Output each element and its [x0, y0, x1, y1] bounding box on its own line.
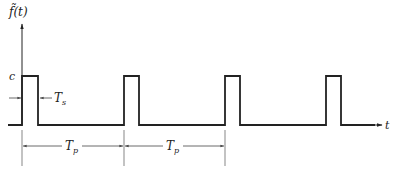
ts-label: Ts [54, 91, 66, 107]
tp-label-1: Tp [65, 139, 78, 155]
x-axis-label: t [385, 119, 390, 132]
y-axis-label: f̃(t) [8, 3, 28, 19]
tp-label-2: Tp [166, 139, 179, 155]
ts-subscript: s [62, 98, 66, 107]
pulse-train-diagram: f̃(t) c t Ts Tp Tp [0, 0, 394, 170]
amplitude-label: c [9, 70, 15, 83]
